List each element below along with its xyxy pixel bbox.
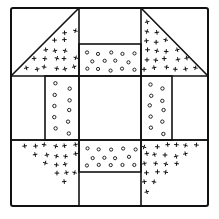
cross-mark-v — [177, 57, 178, 62]
cross-mark-v — [165, 162, 166, 166]
cross-mark-v — [156, 49, 157, 53]
circle-mark — [85, 164, 88, 167]
cross-mark-v — [74, 170, 75, 174]
circle-mark — [149, 115, 152, 118]
cross-mark-v — [75, 56, 76, 60]
circle-mark — [127, 155, 130, 158]
circle-mark — [91, 156, 94, 159]
circle-mark — [149, 83, 152, 86]
circle-mark — [103, 59, 106, 62]
circle-mark — [120, 67, 123, 70]
rect-right-outline — [141, 76, 172, 140]
cross-mark-v — [65, 154, 66, 159]
triangle-top-right-crosses — [142, 20, 198, 72]
cross-mark-v — [185, 67, 186, 72]
cross-mark-v — [186, 56, 187, 61]
block-structure — [11, 8, 208, 206]
circle-mark — [110, 148, 113, 151]
cross-mark-v — [55, 144, 56, 148]
cross-mark-v — [155, 161, 156, 166]
circle-mark — [121, 163, 124, 166]
cross-mark-v — [165, 38, 166, 42]
circle-mark — [66, 120, 69, 123]
circle-mark — [133, 68, 136, 71]
circle-mark — [162, 108, 165, 111]
cross-mark-v — [56, 66, 57, 70]
cross-mark-v — [44, 65, 45, 70]
cross-mark-v — [45, 48, 46, 53]
cross-mark-v — [146, 190, 147, 194]
cross-mark-v — [195, 66, 196, 70]
cross-mark-v — [64, 67, 65, 72]
cross-mark-v — [176, 161, 177, 166]
circle-mark — [96, 67, 99, 70]
cross-mark-v — [185, 151, 186, 155]
circle-mark — [122, 147, 125, 150]
circle-mark — [127, 61, 130, 64]
cross-mark-v — [144, 161, 145, 165]
circle-mark — [161, 120, 164, 123]
cross-mark-v — [154, 65, 155, 70]
cross-mark-v — [45, 161, 46, 165]
circle-mark — [97, 148, 100, 151]
circle-mark — [68, 108, 71, 111]
cross-mark-v — [47, 153, 48, 158]
cross-mark-v — [56, 154, 57, 158]
circle-mark — [161, 99, 164, 102]
circle-mark — [161, 87, 164, 90]
circle-mark — [134, 148, 137, 151]
cross-mark-v — [75, 142, 76, 146]
cross-mark-v — [143, 145, 144, 149]
circle-mark — [133, 163, 136, 166]
circle-mark — [148, 104, 151, 107]
cross-mark-v — [45, 56, 46, 61]
cross-mark-v — [165, 170, 166, 175]
rect-top-circles — [85, 51, 136, 72]
circle-mark — [68, 99, 71, 102]
circle-mark — [67, 132, 70, 135]
triangle-bottom-right-crosses — [142, 142, 199, 194]
cross-mark-v — [56, 56, 57, 60]
circle-mark — [109, 164, 112, 167]
cross-mark-v — [35, 152, 36, 157]
cross-mark-v — [154, 180, 155, 185]
cross-mark-v — [26, 66, 27, 70]
circle-mark — [162, 132, 165, 135]
circle-mark — [54, 127, 57, 130]
cross-mark-v — [75, 151, 76, 156]
cross-mark-v — [54, 48, 55, 52]
cross-mark-v — [157, 30, 158, 35]
cross-mark-v — [73, 65, 74, 69]
cross-mark-v — [65, 162, 66, 166]
circle-mark — [68, 87, 71, 90]
cross-mark-v — [176, 154, 177, 158]
circle-mark — [54, 82, 57, 85]
circle-mark — [103, 156, 106, 159]
circle-mark — [133, 52, 136, 55]
cross-mark-v — [147, 20, 148, 25]
cross-mark-v — [75, 29, 76, 33]
cross-mark-v — [167, 142, 168, 147]
rect-bottom-outline — [79, 140, 141, 172]
triangle-bottom-left-crosses — [22, 142, 78, 183]
circle-mark — [114, 59, 117, 62]
circle-mark — [97, 163, 100, 166]
quilt-block-diagram — [0, 0, 219, 219]
circle-mark — [86, 67, 89, 70]
circle-mark — [85, 51, 88, 54]
cross-mark-v — [56, 163, 57, 168]
cross-mark-v — [196, 143, 197, 148]
circle-mark — [53, 93, 56, 96]
circle-mark — [96, 52, 99, 55]
cross-mark-v — [64, 143, 65, 148]
circle-mark — [53, 104, 56, 107]
rect-top-outline — [79, 44, 141, 76]
cross-mark-v — [146, 29, 147, 33]
circle-mark — [91, 60, 94, 63]
triangle-top-right-diagonal — [141, 8, 208, 76]
outer-border — [11, 8, 208, 206]
triangle-top-left-diagonal — [11, 8, 79, 76]
circle-mark — [53, 115, 56, 118]
circle-mark — [113, 157, 116, 160]
cross-mark-v — [146, 151, 147, 156]
